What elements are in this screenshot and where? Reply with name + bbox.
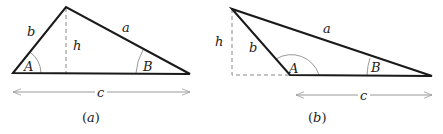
triangle-diagrams: b a h A B c (a) h b a A B c (b) bbox=[0, 0, 443, 134]
angle-label-A-b: A bbox=[288, 61, 298, 76]
side-label-c-b: c bbox=[360, 88, 368, 103]
side-label-b-b: b bbox=[249, 40, 257, 55]
angle-arc-B-a bbox=[136, 50, 143, 73]
caption-a: (a) bbox=[82, 110, 100, 125]
height-label-a: h bbox=[73, 38, 81, 53]
figure-b: h b a A B c (b) bbox=[215, 9, 432, 125]
angle-label-B-a: B bbox=[142, 59, 153, 74]
side-label-a-a: a bbox=[122, 20, 130, 35]
angle-arc-B-b bbox=[367, 58, 370, 75]
height-label-b: h bbox=[215, 34, 223, 49]
side-label-b-a: b bbox=[27, 24, 35, 39]
figure-a: b a h A B c (a) bbox=[13, 7, 190, 125]
side-label-a-b: a bbox=[323, 21, 331, 36]
angle-label-B-b: B bbox=[370, 60, 381, 75]
angle-label-A-a: A bbox=[23, 59, 33, 74]
side-label-c-a: c bbox=[97, 85, 105, 100]
caption-b: (b) bbox=[308, 110, 326, 125]
triangle-b bbox=[232, 9, 432, 76]
